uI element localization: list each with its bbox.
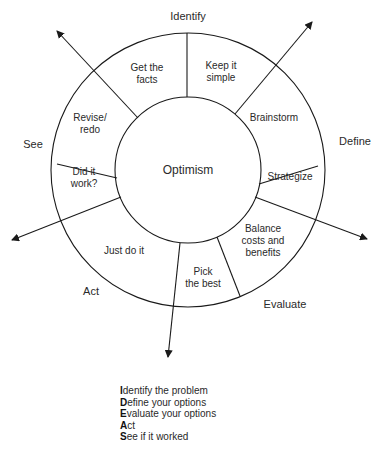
segment-line: Brainstorm (250, 112, 298, 124)
legend-item-evaluate: Evaluate your options (120, 408, 216, 420)
segment-did-it-work: Did it work? (71, 166, 98, 190)
legend-item-act: Act (120, 420, 216, 432)
legend-text: valuate your options (127, 408, 217, 419)
segment-line: work? (71, 178, 98, 190)
segment-get-the-facts: Get the facts (131, 62, 164, 86)
stage-define: Define (339, 135, 371, 148)
arrow-see-identify (57, 31, 138, 118)
segment-just-do-it: Just do it (104, 245, 144, 257)
segment-balance-costs: Balance costs and benefits (242, 223, 285, 259)
legend-initial: S (120, 431, 127, 442)
segment-strategize: Strategize (267, 171, 312, 183)
segment-pick-the-best: Pick the best (185, 266, 221, 290)
segment-line: redo (73, 124, 106, 136)
segment-line: the best (185, 278, 221, 290)
segment-line: facts (131, 74, 164, 86)
legend-item-see: See if it worked (120, 431, 216, 443)
arrow-identify-define (235, 22, 312, 114)
segment-line: Pick (185, 266, 221, 278)
legend-text: ct (127, 420, 135, 431)
center-label: Optimism (163, 163, 214, 177)
legend-item-define: Define your options (120, 397, 216, 409)
segment-line: costs and (242, 235, 285, 247)
legend-item-identify: Identify the problem (120, 385, 216, 397)
segment-line: Balance (242, 223, 285, 235)
segment-line: Keep it (205, 60, 236, 72)
arrow-evaluate-act (168, 243, 180, 357)
segment-line: simple (205, 72, 236, 84)
legend-text: efine your options (127, 397, 206, 408)
stage-identify: Identify (170, 10, 205, 23)
segment-line: benefits (242, 247, 285, 259)
segment-line: Just do it (104, 245, 144, 257)
stage-see: See (23, 138, 43, 151)
segment-revise-redo: Revise/ redo (73, 112, 106, 136)
legend-text: ee if it worked (127, 431, 189, 442)
segment-line: Did it (71, 166, 98, 178)
segment-brainstorm: Brainstorm (250, 112, 298, 124)
segment-line: Get the (131, 62, 164, 74)
segment-line: Strategize (267, 171, 312, 183)
legend-text: dentify the problem (123, 385, 208, 396)
stage-act: Act (83, 285, 99, 298)
segment-line: Revise/ (73, 112, 106, 124)
legend-initial: E (120, 408, 127, 419)
stage-evaluate: Evaluate (264, 298, 307, 311)
segment-keep-it-simple: Keep it simple (205, 60, 236, 84)
acronym-legend: Identify the problem Define your options… (120, 385, 216, 443)
